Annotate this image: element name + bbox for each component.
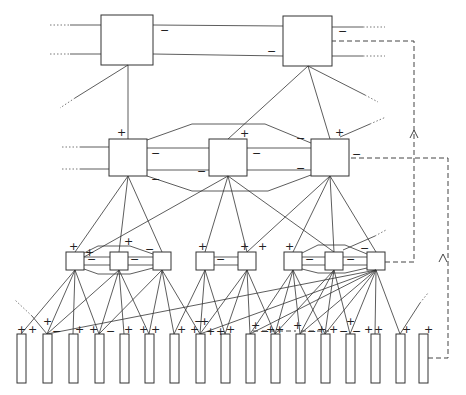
plus-sign: + <box>89 323 98 336</box>
unit-bar <box>145 334 154 383</box>
plus-sign: + <box>69 240 78 253</box>
plus-sign: + <box>258 240 267 253</box>
plus-sign: + <box>374 323 383 336</box>
unit-bar <box>120 334 129 383</box>
plus-sign: + <box>364 323 373 336</box>
plus-sign: + <box>198 240 207 253</box>
unit-bar <box>321 334 330 383</box>
minus-sign: − <box>352 148 361 161</box>
level-1: − − − <box>50 15 385 139</box>
minus-sign: − <box>305 253 314 266</box>
minus-sign: − <box>197 165 206 178</box>
plus-sign: + <box>275 323 284 336</box>
module-l3 <box>325 252 343 270</box>
unit-bar <box>419 334 428 383</box>
module-l3 <box>238 252 256 270</box>
unit-bar <box>95 334 104 383</box>
plus-sign: + <box>177 323 186 336</box>
minus-sign: − <box>145 243 154 256</box>
plus-sign: + <box>285 240 294 253</box>
minus-sign: − <box>151 173 160 186</box>
unit-bar <box>346 334 355 383</box>
unit-bar <box>170 334 179 383</box>
minus-sign: − <box>346 253 355 266</box>
unit-bar <box>43 334 52 383</box>
module-l2-a <box>109 139 147 176</box>
minus-sign: − <box>52 325 61 338</box>
feedback-paths <box>253 41 448 358</box>
unit-bar <box>296 334 305 383</box>
minus-sign: − <box>130 253 139 266</box>
unit-bar <box>17 334 26 383</box>
plus-sign: + <box>43 315 52 328</box>
plus-sign: + <box>17 323 26 336</box>
minus-sign: − <box>296 132 305 145</box>
module-l2-b <box>209 139 247 176</box>
plus-sign: + <box>206 325 215 338</box>
minus-sign: − <box>216 253 225 266</box>
unit-bar <box>196 334 205 383</box>
plus-sign: + <box>402 323 411 336</box>
diagram-canvas: − − − + + + − − − − <box>0 0 466 395</box>
unit-bar <box>371 334 380 383</box>
plus-sign: + <box>117 126 126 139</box>
plus-sign: + <box>424 323 433 336</box>
plus-sign: + <box>226 323 235 336</box>
level-4: + + + − + + − + + + + + − + + + + + − + … <box>17 315 433 383</box>
minus-sign: − <box>360 242 369 255</box>
plus-sign: + <box>240 240 249 253</box>
plus-sign: + <box>329 323 338 336</box>
module-l3 <box>196 252 214 270</box>
plus-sign: + <box>335 126 344 139</box>
minus-sign: − <box>160 24 169 37</box>
module-l3 <box>367 252 385 270</box>
plus-sign: + <box>124 235 133 248</box>
unit-bar <box>396 334 405 383</box>
module-l3 <box>284 252 302 270</box>
plus-sign: + <box>75 323 84 336</box>
plus-sign: + <box>28 323 37 336</box>
unit-bar <box>69 334 78 383</box>
unit-bar <box>271 334 280 383</box>
plus-sign: + <box>151 323 160 336</box>
level-2: + + + − − − − − − − <box>62 117 386 257</box>
minus-sign: − <box>352 325 361 338</box>
module-l3 <box>153 252 171 270</box>
minus-sign: − <box>106 325 115 338</box>
plus-sign: + <box>266 323 275 336</box>
plus-sign: + <box>317 323 326 336</box>
plus-sign: + <box>216 325 225 338</box>
network-diagram: − − − + + + − − − − <box>0 0 466 395</box>
level-3: + + + + + + + − − − − − − − <box>15 230 428 334</box>
unit-bar <box>221 334 230 383</box>
module-l3 <box>66 252 84 270</box>
minus-sign: − <box>252 147 261 160</box>
plus-sign: + <box>240 127 249 140</box>
minus-sign: − <box>151 147 160 160</box>
minus-sign: − <box>87 253 96 266</box>
module-l1-b <box>283 16 332 66</box>
minus-sign: − <box>338 25 347 38</box>
plus-sign: + <box>251 319 260 332</box>
module-l3 <box>110 252 128 270</box>
minus-sign: − <box>267 45 276 58</box>
plus-sign: + <box>293 319 302 332</box>
module-l1-a <box>101 15 153 65</box>
plus-sign: + <box>139 323 148 336</box>
unit-bar <box>246 334 255 383</box>
plus-sign: + <box>124 323 133 336</box>
minus-sign: − <box>296 162 305 175</box>
module-l2-c <box>311 139 349 176</box>
